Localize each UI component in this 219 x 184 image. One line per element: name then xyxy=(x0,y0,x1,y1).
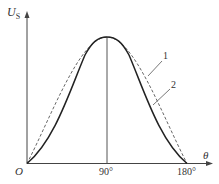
curve-1-label: 1 xyxy=(163,51,168,61)
tick-90-label: 90° xyxy=(99,167,113,177)
x-axis-arrow-icon xyxy=(206,161,213,166)
curve-2-label: 2 xyxy=(171,80,176,90)
leader-line-1 xyxy=(148,61,162,76)
tick-180-label: 180° xyxy=(177,167,196,177)
chart-plot xyxy=(0,0,219,184)
y-axis-arrow-icon xyxy=(25,11,30,18)
chart: US θ O 90° 180° 1 2 xyxy=(0,0,219,184)
x-axis-label: θ xyxy=(203,150,208,161)
origin-label: O xyxy=(15,166,23,177)
y-axis-label: US xyxy=(7,6,20,21)
leader-line-2 xyxy=(153,89,170,105)
